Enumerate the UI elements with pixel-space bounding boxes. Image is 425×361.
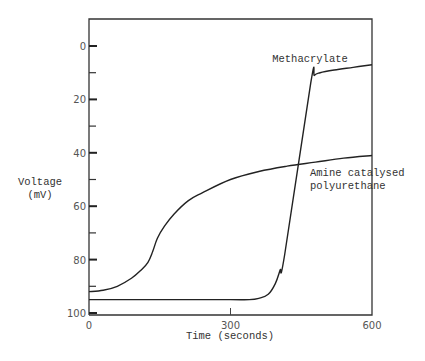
y-tick-label: 20 [73,94,86,105]
x-tick-label: 600 [362,320,381,331]
y-tick-label: 60 [73,201,86,212]
x-axis-ticks: 0300600 [86,308,382,331]
y-tick-label: 40 [73,148,86,159]
series-label-amine-line2: polyurethane [310,180,386,192]
y-tick-label: 0 [80,41,86,52]
y-axis-label-line1: Voltage [18,176,62,188]
chart: 020406080100 0300600 Time (seconds) Volt… [0,0,425,361]
y-axis-ticks: 020406080100 [67,41,97,319]
y-tick-label: 80 [73,255,86,266]
x-axis-label: Time (seconds) [186,330,274,342]
x-tick-label: 0 [86,320,92,331]
series-label-amine-line1: Amine catalysed [310,167,405,179]
y-axis-label-line2: (mV) [27,189,52,201]
y-tick-label: 100 [67,308,86,319]
series-label-methacrylate: Methacrylate [272,53,348,65]
